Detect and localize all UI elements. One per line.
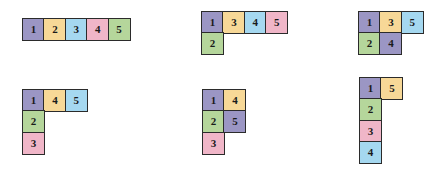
cell-4[interactable]: 4 <box>244 11 267 34</box>
cell-5[interactable]: 5 <box>401 11 424 34</box>
cell-1[interactable]: 1 <box>22 18 45 41</box>
shape-4-V-corner: 14523 <box>22 89 88 155</box>
cell-1[interactable]: 1 <box>358 11 381 34</box>
cell-2[interactable]: 2 <box>22 110 45 133</box>
shape-5-P-tall: 14253 <box>202 89 246 155</box>
cell-4[interactable]: 4 <box>379 32 402 55</box>
shape-3-P-block: 13524 <box>358 11 424 55</box>
cell-4[interactable]: 4 <box>43 89 66 112</box>
cell-2[interactable]: 2 <box>202 110 225 133</box>
cell-3[interactable]: 3 <box>65 18 88 41</box>
cell-1[interactable]: 1 <box>201 11 224 34</box>
cell-5[interactable]: 5 <box>380 77 403 100</box>
shape-2-L-long: 13452 <box>201 11 288 55</box>
cell-3[interactable]: 3 <box>379 11 402 34</box>
cell-5[interactable]: 5 <box>265 11 288 34</box>
cell-2[interactable]: 2 <box>359 98 382 121</box>
cell-4[interactable]: 4 <box>86 18 109 41</box>
shape-1-straight-row: 12345 <box>22 18 131 41</box>
cell-grid: 13452 <box>201 11 288 55</box>
cell-grid: 13524 <box>358 11 424 55</box>
cell-2[interactable]: 2 <box>358 32 381 55</box>
cell-3[interactable]: 3 <box>222 11 245 34</box>
cell-5[interactable]: 5 <box>108 18 131 41</box>
cell-grid: 12345 <box>22 18 131 41</box>
cell-1[interactable]: 1 <box>359 77 382 100</box>
cell-grid: 14523 <box>22 89 88 155</box>
cell-grid: 15234 <box>359 77 403 164</box>
cell-2[interactable]: 2 <box>201 32 224 55</box>
cell-2[interactable]: 2 <box>43 18 66 41</box>
cell-3[interactable]: 3 <box>202 132 225 155</box>
cell-3[interactable]: 3 <box>359 120 382 143</box>
cell-5[interactable]: 5 <box>223 110 246 133</box>
cell-1[interactable]: 1 <box>202 89 225 112</box>
cell-5[interactable]: 5 <box>65 89 88 112</box>
cell-4[interactable]: 4 <box>223 89 246 112</box>
cell-1[interactable]: 1 <box>22 89 45 112</box>
cell-grid: 14253 <box>202 89 246 155</box>
cell-3[interactable]: 3 <box>22 132 45 155</box>
cell-4[interactable]: 4 <box>359 141 382 164</box>
shape-6-L-tall: 15234 <box>359 77 403 164</box>
